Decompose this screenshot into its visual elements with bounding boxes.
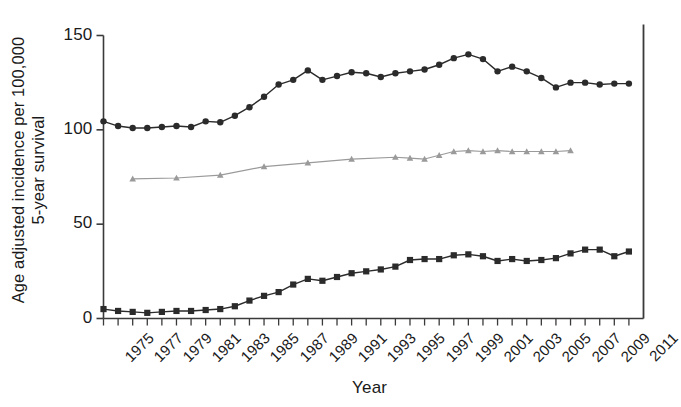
data-point-square <box>553 255 559 261</box>
data-point-circle <box>553 84 559 90</box>
data-point-circle <box>246 104 252 110</box>
data-point-square <box>363 268 369 274</box>
data-point-square <box>232 303 238 309</box>
data-point-square <box>597 247 603 253</box>
data-point-square <box>115 308 121 314</box>
y-axis-label-line-1: Age adjusted incidence per 100,000 <box>8 37 28 304</box>
data-point-circle <box>451 55 457 61</box>
data-point-circle <box>626 80 632 86</box>
data-point-circle <box>524 68 530 74</box>
data-point-square <box>130 309 136 315</box>
data-point-circle <box>305 67 311 73</box>
data-point-square <box>421 256 427 262</box>
data-point-square <box>100 306 106 312</box>
data-point-square <box>203 307 209 313</box>
data-point-square <box>276 289 282 295</box>
data-point-circle <box>407 68 413 74</box>
data-point-circle <box>129 125 135 131</box>
data-point-circle <box>509 63 515 69</box>
y-tick-label: 50 <box>47 213 93 233</box>
data-point-square <box>173 308 179 314</box>
data-point-circle <box>436 62 442 68</box>
data-point-circle <box>421 66 427 72</box>
y-axis-label: Age adjusted incidence per 100,000 5-yea… <box>0 0 56 340</box>
series-line-circle <box>104 54 629 128</box>
data-point-square <box>349 270 355 276</box>
y-tick-label: 100 <box>47 119 93 139</box>
data-point-square <box>217 306 223 312</box>
data-point-square <box>378 266 384 272</box>
data-point-square <box>524 258 530 264</box>
data-point-circle <box>217 119 223 125</box>
data-point-square <box>626 248 632 254</box>
data-point-circle <box>261 94 267 100</box>
data-point-square <box>392 264 398 270</box>
y-axis-label-line-2: 5-year survival <box>28 37 48 304</box>
data-point-square <box>436 256 442 262</box>
data-point-square <box>611 253 617 259</box>
data-point-square <box>538 257 544 263</box>
data-point-square <box>465 251 471 257</box>
data-point-square <box>305 276 311 282</box>
series-line-square <box>104 250 629 313</box>
data-point-circle <box>173 123 179 129</box>
data-point-square <box>319 278 325 284</box>
data-point-circle <box>582 79 588 85</box>
data-point-circle <box>567 79 573 85</box>
y-tick-label: 0 <box>47 308 93 328</box>
data-point-square <box>451 252 457 258</box>
data-point-circle <box>392 70 398 76</box>
data-point-circle <box>611 80 617 86</box>
data-point-square <box>567 250 573 256</box>
y-tick-label: 150 <box>47 25 93 45</box>
data-point-circle <box>319 77 325 83</box>
data-point-square <box>334 274 340 280</box>
data-point-circle <box>159 124 165 130</box>
data-point-circle <box>378 74 384 80</box>
data-point-circle <box>538 75 544 81</box>
data-point-square <box>144 310 150 316</box>
data-point-circle <box>480 56 486 62</box>
x-axis-label: Year <box>352 378 387 398</box>
data-point-circle <box>144 125 150 131</box>
series-line-triangle <box>133 151 571 179</box>
data-point-circle <box>348 69 354 75</box>
data-point-circle <box>290 77 296 83</box>
data-point-circle <box>363 70 369 76</box>
data-point-circle <box>275 81 281 87</box>
data-point-circle <box>202 118 208 124</box>
data-point-square <box>188 308 194 314</box>
data-point-square <box>494 258 500 264</box>
data-point-square <box>159 309 165 315</box>
data-point-square <box>480 253 486 259</box>
data-point-circle <box>494 68 500 74</box>
data-point-circle <box>465 51 471 57</box>
data-point-square <box>246 297 252 303</box>
data-point-circle <box>188 124 194 130</box>
data-point-square <box>290 281 296 287</box>
data-point-square <box>261 293 267 299</box>
data-point-square <box>509 256 515 262</box>
data-point-circle <box>232 112 238 118</box>
data-point-square <box>582 247 588 253</box>
data-point-square <box>407 257 413 263</box>
data-point-circle <box>334 73 340 79</box>
data-point-circle <box>597 81 603 87</box>
data-point-circle <box>115 123 121 129</box>
data-point-circle <box>100 118 106 124</box>
